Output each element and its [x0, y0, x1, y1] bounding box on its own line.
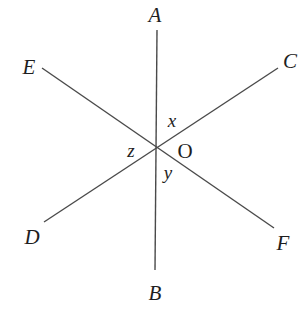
point-label-d: D: [23, 225, 39, 249]
point-label-f: F: [276, 231, 290, 255]
center-label-o: O: [177, 139, 192, 163]
angle-label-y: y: [162, 162, 173, 183]
angle-label-z: z: [126, 140, 135, 161]
point-label-e: E: [22, 55, 36, 79]
point-label-b: B: [149, 281, 162, 305]
point-label-a: A: [147, 3, 162, 27]
line-ef: [42, 68, 274, 228]
diagram-canvas: A B C D E F O x y z: [0, 0, 306, 310]
line-cd: [44, 68, 278, 222]
line-ab: [155, 30, 157, 270]
point-label-c: C: [283, 49, 298, 73]
angle-label-x: x: [167, 110, 177, 131]
intersecting-lines-diagram: A B C D E F O x y z: [0, 0, 306, 310]
